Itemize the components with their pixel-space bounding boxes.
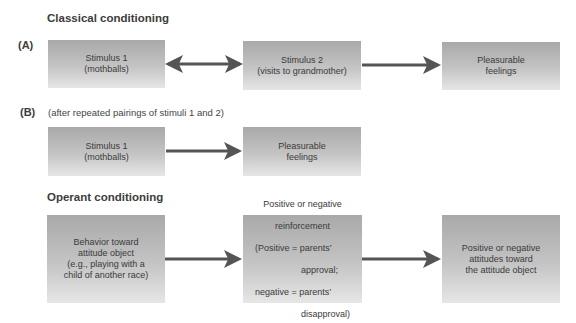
arrows-layer <box>0 0 576 314</box>
